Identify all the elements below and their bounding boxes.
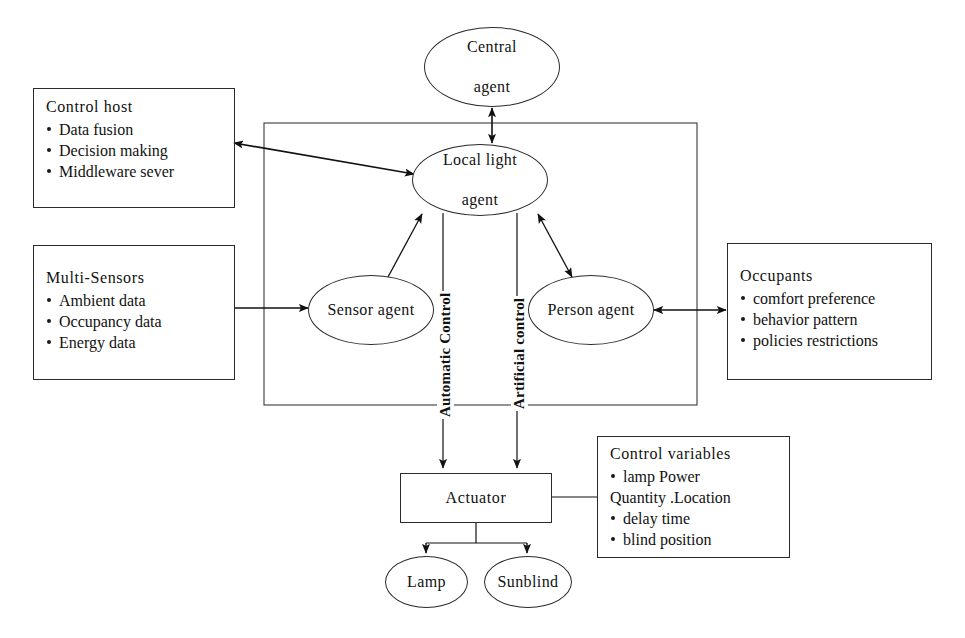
list-item: lamp Power	[610, 466, 779, 487]
local-light-agent-label-line2: agent	[443, 190, 517, 210]
list-item: Quantity .Location	[610, 487, 779, 508]
multi-sensors-box: Multi-Sensors Ambient data Occupancy dat…	[33, 245, 235, 380]
sensor-agent-label: Sensor agent	[327, 300, 414, 320]
list-item: Data fusion	[46, 119, 224, 140]
sensor-agent-node[interactable]: Sensor agent	[308, 275, 434, 345]
local-light-agent-label-line1: Local light	[443, 150, 517, 170]
control-host-title: Control host	[46, 97, 224, 117]
person-agent-node[interactable]: Person agent	[528, 275, 654, 345]
list-item: Decision making	[46, 140, 224, 161]
control-host-box: Control host Data fusion Decision making…	[33, 88, 235, 208]
edge-control-host-local-light-agent	[234, 143, 414, 174]
actuator-label: Actuator	[446, 489, 507, 507]
lamp-label: Lamp	[407, 572, 446, 592]
artificial-control-label: Artificial control	[511, 296, 528, 411]
central-agent-label: Central agent	[467, 37, 517, 97]
actuator-node[interactable]: Actuator	[400, 473, 552, 523]
occupants-list: comfort preference behavior pattern poli…	[740, 288, 921, 351]
control-variables-title: Control variables	[610, 444, 779, 464]
control-host-list: Data fusion Decision making Middleware s…	[46, 119, 224, 182]
edge-sensor-agent-local-light-agent	[388, 214, 422, 277]
occupants-box: Occupants comfort preference behavior pa…	[727, 243, 932, 380]
central-agent-node[interactable]: Central agent	[424, 27, 560, 107]
control-variables-list: lamp Power Quantity .Location delay time…	[610, 466, 779, 550]
multi-sensors-title: Multi-Sensors	[46, 268, 224, 288]
central-agent-label-line1: Central	[467, 37, 517, 57]
list-item: delay time	[610, 508, 779, 529]
local-light-agent-label: Local light agent	[443, 150, 517, 210]
sunblind-label: Sunblind	[498, 572, 559, 592]
central-agent-label-line2: agent	[467, 77, 517, 97]
list-item: comfort preference	[740, 288, 921, 309]
sunblind-node[interactable]: Sunblind	[484, 556, 572, 608]
automatic-control-label: Automatic Control	[437, 291, 454, 419]
occupants-title: Occupants	[740, 266, 921, 286]
control-variables-box: Control variables lamp Power Quantity .L…	[597, 436, 790, 558]
list-item: Energy data	[46, 332, 224, 353]
list-item: Occupancy data	[46, 311, 224, 332]
list-item: behavior pattern	[740, 309, 921, 330]
local-light-agent-node[interactable]: Local light agent	[412, 144, 548, 216]
diagram-canvas: Control host Data fusion Decision making…	[0, 0, 965, 638]
multi-sensors-list: Ambient data Occupancy data Energy data	[46, 290, 224, 353]
list-item: Middleware sever	[46, 161, 224, 182]
lamp-node[interactable]: Lamp	[385, 556, 468, 608]
list-item: blind position	[610, 529, 779, 550]
person-agent-label: Person agent	[547, 300, 634, 320]
list-item: policies restrictions	[740, 330, 921, 351]
edge-local-light-agent-person-agent	[538, 214, 572, 277]
list-item: Ambient data	[46, 290, 224, 311]
